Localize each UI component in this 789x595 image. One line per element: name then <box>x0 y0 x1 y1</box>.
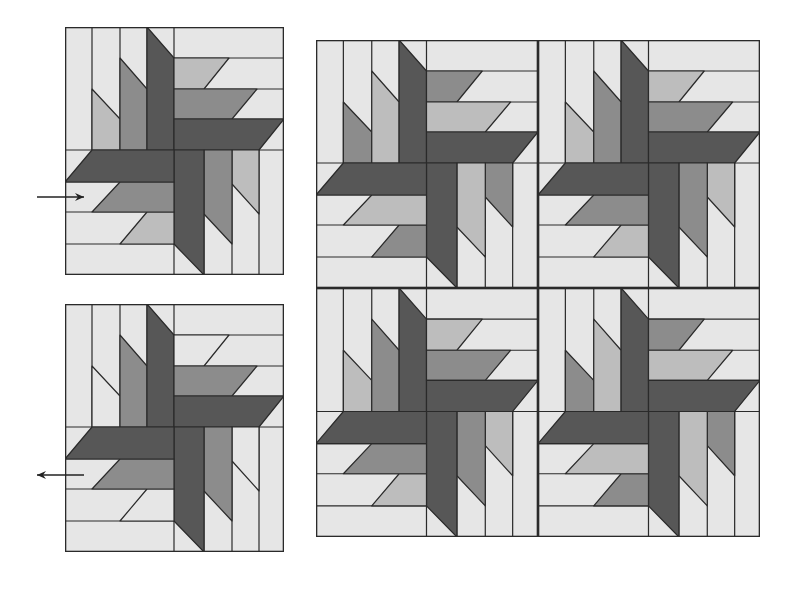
grid-bottom-left <box>316 288 538 537</box>
grid-top-right <box>538 40 760 288</box>
grid-bottom-right <box>538 288 760 537</box>
sample-block-a <box>65 27 284 275</box>
grid-top-left <box>316 40 538 288</box>
sample-block-b <box>65 304 284 552</box>
